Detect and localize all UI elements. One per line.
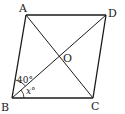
- intersection-label-o: O: [63, 52, 72, 65]
- vertex-label-d: D: [108, 7, 117, 20]
- parallelogram-diagram: A D B C O 40° x°: [0, 0, 125, 114]
- angle-label-x: x°: [26, 86, 36, 96]
- angle-label-40: 40°: [17, 75, 33, 85]
- vertex-label-a: A: [18, 2, 28, 15]
- angle-arc-dbc: [21, 90, 24, 98]
- side-cd: [93, 15, 106, 98]
- vertex-label-b: B: [1, 101, 9, 114]
- vertex-label-c: C: [91, 100, 99, 113]
- side-ab: [12, 15, 26, 98]
